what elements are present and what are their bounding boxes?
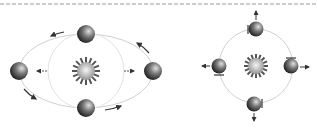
planet-left — [10, 62, 28, 80]
circular-orbit-panel — [202, 11, 309, 121]
elliptical-orbit-panel — [10, 25, 162, 117]
motion-arrow-top-left — [51, 32, 64, 36]
planet-bottom — [77, 99, 95, 117]
planet-left — [212, 59, 227, 74]
planet-right — [144, 62, 162, 80]
sun-icon — [72, 57, 100, 85]
orbit-diagram — [0, 0, 318, 129]
planet-bottom — [247, 97, 262, 112]
sun-icon — [244, 54, 268, 78]
planet-right — [284, 59, 299, 74]
planet-top — [77, 25, 95, 43]
planet-top — [249, 22, 264, 37]
